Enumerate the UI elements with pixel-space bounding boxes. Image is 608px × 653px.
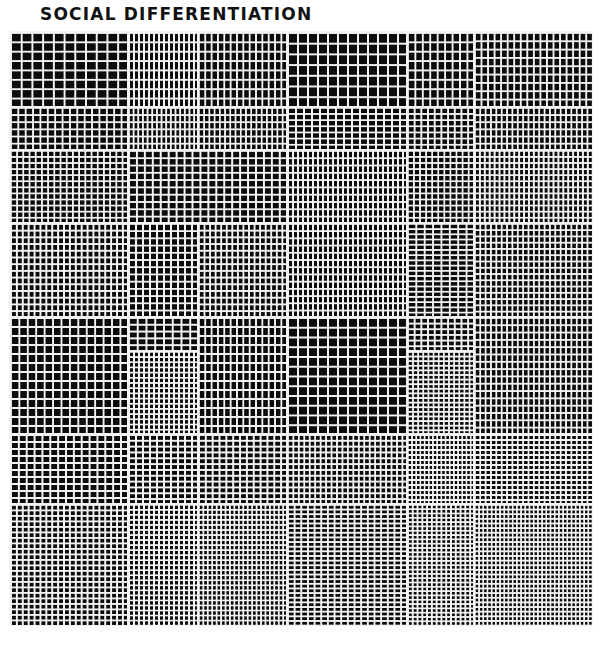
grid-block (287, 317, 407, 434)
grid-block (198, 32, 287, 107)
grid-block (287, 32, 407, 107)
grid-block (10, 504, 128, 625)
grid-block (128, 351, 198, 434)
grid-block (128, 223, 198, 317)
grid-block (128, 317, 198, 351)
grid-block (10, 32, 128, 107)
grid-block (287, 434, 407, 504)
grid-block (287, 223, 407, 317)
grid-block (10, 223, 128, 317)
grid-block (198, 434, 287, 504)
grid-block (128, 434, 198, 504)
grid-block (128, 32, 198, 107)
grid-block (474, 504, 592, 625)
grid-block (287, 150, 407, 223)
grid-block (407, 32, 474, 107)
grid-block (407, 317, 474, 351)
grid-artwork (10, 32, 592, 625)
grid-block (128, 150, 287, 223)
grid-block (407, 150, 474, 223)
grid-block (128, 504, 198, 625)
grid-block (287, 107, 407, 150)
grid-block (407, 223, 474, 317)
grid-block (10, 107, 128, 150)
grid-block (474, 434, 592, 504)
grid-block (474, 32, 592, 107)
grid-block (198, 223, 287, 317)
grid-block (198, 504, 287, 625)
grid-block (407, 351, 474, 434)
grid-block (198, 107, 287, 150)
grid-block (407, 107, 474, 150)
grid-block (407, 504, 474, 625)
grid-block (10, 150, 128, 223)
grid-block (474, 150, 592, 223)
grid-block (287, 504, 407, 625)
grid-block (474, 223, 592, 317)
grid-block (10, 434, 128, 504)
grid-block (474, 317, 592, 434)
grid-block (128, 107, 198, 150)
grid-block (198, 317, 287, 434)
artwork-title: SOCIAL DIFFERENTIATION (40, 4, 312, 24)
grid-block (10, 317, 128, 434)
grid-block (474, 107, 592, 150)
grid-block (407, 434, 474, 504)
